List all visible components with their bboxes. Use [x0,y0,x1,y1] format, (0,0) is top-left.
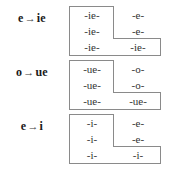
boot-cell: -ue- [70,77,114,93]
boot-cell: -o- [116,61,160,77]
boot-cell: -ue- [70,61,114,77]
rule-label-e-i: e→i [0,119,64,133]
boot-cell: -i- [70,131,114,147]
boot-cell: -ie- [70,7,114,23]
boot-edge-right [160,146,161,164]
boot-outline-e-ie: -ie- -e- -ie- -e- -ie- -ie- [69,6,162,56]
rule-label-o-ue: o→ue [0,65,64,79]
boot-edge-bottom [69,163,161,164]
boot-edge-right [160,92,161,110]
boot-cell: -o- [116,77,160,93]
boot-diagram: e→ie -ie- -e- -ie- -e- -ie- -ie- o→ue [0,0,170,174]
boot-cell: -ie- [70,23,114,39]
arrow-icon: → [26,120,39,132]
boot-outline-e-i: -i- -e- -i- -e- -i- -i- [69,114,162,164]
boot-cell: -i- [116,147,160,163]
boot-cell: -i- [70,115,114,131]
boot-cell: -ue- [70,93,114,109]
boot-cell: -ie- [70,39,114,55]
boot-cell: -e- [116,23,160,39]
rule-from: e [18,11,24,25]
boot-cell: -ie- [116,39,160,55]
boot-group-e-i: e→i -i- -e- -i- -e- -i- -i- [0,114,170,167]
boot-edge-bottom [69,55,161,56]
boot-group-e-ie: e→ie -ie- -e- -ie- -e- -ie- -ie- [0,6,170,59]
arrow-icon: → [22,66,35,78]
boot-cell: -ue- [116,93,160,109]
boot-cell: -i- [70,147,114,163]
rule-to: i [40,119,44,133]
boot-cell: -e- [116,115,160,131]
boot-outline-o-ue: -ue- -o- -ue- -o- -ue- -ue- [69,60,162,110]
rule-to: ie [37,11,46,25]
boot-group-o-ue: o→ue -ue- -o- -ue- -o- -ue- -ue- [0,60,170,113]
rule-label-e-ie: e→ie [0,11,64,25]
boot-edge-bottom [69,109,161,110]
boot-edge-right [160,38,161,56]
boot-cell: -e- [116,7,160,23]
arrow-icon: → [24,12,37,24]
boot-cell: -e- [116,131,160,147]
rule-to: ue [36,65,48,79]
